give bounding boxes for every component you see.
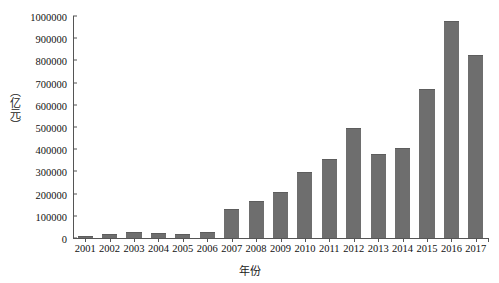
y-axis-tick-label: 500000 <box>36 123 74 134</box>
x-axis-tick-mark <box>378 238 379 242</box>
x-axis-tick-mark <box>85 238 86 242</box>
y-axis-tick-label: 0 <box>62 234 73 245</box>
y-axis-tick-mark <box>73 16 77 17</box>
x-axis-tick-mark <box>354 238 355 242</box>
y-axis-tick: 1000000 <box>30 7 73 25</box>
plot-area: 0100000200000300000400000500000600000700… <box>73 16 488 238</box>
y-axis-tick-label: 400000 <box>36 145 74 156</box>
x-axis-tick-label: 2009 <box>270 243 291 254</box>
y-axis-tick-label: 800000 <box>36 56 74 67</box>
x-axis-tick-label: 2005 <box>172 243 193 254</box>
bar <box>346 128 361 238</box>
y-axis-tick-mark <box>73 215 77 216</box>
bar <box>322 159 337 238</box>
y-axis-tick-mark <box>73 104 77 105</box>
bar <box>297 172 312 238</box>
x-axis-end-tick-mark <box>488 238 489 242</box>
bar <box>249 201 264 238</box>
y-axis-tick-mark <box>73 60 77 61</box>
y-axis-tick-label: 100000 <box>36 212 74 223</box>
x-axis-tick-mark <box>232 238 233 242</box>
y-axis-tick-mark <box>73 149 77 150</box>
x-axis-tick-mark <box>305 238 306 242</box>
bar <box>395 148 410 238</box>
y-axis-tick-mark <box>73 238 77 239</box>
x-axis-tick-mark <box>207 238 208 242</box>
y-axis-tick: 300000 <box>36 162 74 180</box>
y-axis-tick: 800000 <box>36 51 74 69</box>
x-axis-tick-label: 2011 <box>319 243 340 254</box>
y-axis-tick-mark <box>73 38 77 39</box>
bar <box>419 89 434 238</box>
x-axis-tick-label: 2003 <box>124 243 145 254</box>
bar <box>273 192 288 239</box>
x-axis-tick-mark <box>329 238 330 242</box>
bar <box>224 209 239 238</box>
y-axis-tick-label: 900000 <box>36 34 74 45</box>
x-axis-tick-mark <box>183 238 184 242</box>
x-axis-tick-mark <box>158 238 159 242</box>
x-axis-tick-label: 2008 <box>246 243 267 254</box>
x-axis-tick-label: 2014 <box>392 243 413 254</box>
y-axis-tick-mark <box>73 127 77 128</box>
y-axis-tick: 400000 <box>36 140 74 158</box>
bar <box>468 55 483 238</box>
y-axis-tick-label: 200000 <box>36 190 74 201</box>
y-axis-title: （亿元） <box>2 86 20 130</box>
y-axis-tick: 900000 <box>36 29 74 47</box>
x-axis-tick-mark <box>110 238 111 242</box>
y-axis-tick-label: 700000 <box>36 79 74 90</box>
y-axis-tick-mark <box>73 82 77 83</box>
x-axis-tick-mark <box>476 238 477 242</box>
x-axis-tick-mark <box>403 238 404 242</box>
y-axis-tick-label: 1000000 <box>30 12 73 23</box>
x-axis-tick-label: 2013 <box>368 243 389 254</box>
y-axis-tick: 100000 <box>36 207 74 225</box>
y-axis-tick: 0 <box>62 229 73 247</box>
x-axis-tick-label: 2001 <box>75 243 96 254</box>
x-axis-tick-mark <box>451 238 452 242</box>
bar <box>444 21 459 238</box>
x-axis-title: 年份 <box>0 262 499 278</box>
y-axis-tick: 600000 <box>36 96 74 114</box>
x-axis-tick-label: 2017 <box>465 243 486 254</box>
x-axis-tick-label: 2006 <box>197 243 218 254</box>
x-axis-tick-mark <box>256 238 257 242</box>
x-axis-tick-label: 2007 <box>221 243 242 254</box>
chart-screenshot: （亿元） 01000002000003000004000005000006000… <box>0 0 499 283</box>
y-axis-tick-mark <box>73 171 77 172</box>
y-axis-tick-label: 300000 <box>36 167 74 178</box>
y-axis-tick-mark <box>73 193 77 194</box>
x-axis-tick-label: 2002 <box>99 243 120 254</box>
x-axis-tick-mark <box>281 238 282 242</box>
x-axis-tick-mark <box>134 238 135 242</box>
y-axis-tick: 500000 <box>36 118 74 136</box>
x-axis-tick-mark <box>427 238 428 242</box>
y-axis-tick: 700000 <box>36 74 74 92</box>
y-axis-tick-label: 600000 <box>36 101 74 112</box>
y-axis-tick: 200000 <box>36 185 74 203</box>
x-axis-tick-label: 2016 <box>441 243 462 254</box>
x-axis-tick-label: 2012 <box>343 243 364 254</box>
x-axis-tick-label: 2015 <box>416 243 437 254</box>
x-axis-tick-label: 2010 <box>294 243 315 254</box>
bar <box>371 154 386 238</box>
x-axis-tick-label: 2004 <box>148 243 169 254</box>
